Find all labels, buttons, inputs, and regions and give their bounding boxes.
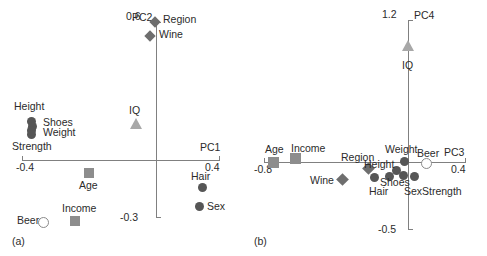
point-label-wine-b: Wine — [310, 175, 334, 186]
point-label-beer-a: Beer — [17, 215, 39, 226]
point-label-strength-a: Strength — [12, 141, 52, 152]
point-marker-strength-a — [27, 130, 36, 139]
point-marker-income-b — [290, 153, 301, 164]
point-label-age-b: Age — [265, 144, 284, 155]
point-label-hair-b: Hair — [369, 186, 388, 197]
point-label-wine-a: Wine — [159, 29, 183, 40]
point-label-height-a: Height — [14, 101, 44, 112]
point-label-region-a: Region — [163, 14, 196, 25]
point-label-sex-a: Sex — [207, 201, 225, 212]
point-label-sex-b: Sex — [404, 186, 422, 197]
point-marker-beer-a — [38, 217, 49, 228]
y-axis-line-b — [408, 20, 409, 230]
x-tick-min-a — [22, 156, 23, 160]
y-tick-min-a — [157, 217, 161, 218]
point-marker-beer-b — [421, 158, 432, 169]
y-tick-label-min-b: -0.5 — [378, 224, 396, 235]
y-tick-max-b — [409, 20, 413, 21]
x-tick-max-b — [465, 158, 466, 162]
point-marker-sex-a — [195, 202, 204, 211]
point-marker-strength-b — [410, 172, 419, 181]
point-marker-hair-a — [198, 183, 207, 192]
point-marker-wine-a — [144, 30, 155, 41]
point-marker-iq-a — [130, 118, 142, 129]
point-label-weight-a: Weight — [43, 127, 76, 138]
panel-label-b: (b) — [254, 236, 267, 247]
point-label-income-b: Income — [291, 143, 325, 154]
point-marker-wine-b — [336, 173, 349, 186]
point-marker-income-a — [70, 216, 80, 226]
panel-label-a: (a) — [12, 236, 25, 247]
x-tick-max-a — [219, 156, 220, 160]
point-label-iq-b: IQ — [402, 60, 413, 71]
point-label-beer-b: Beer — [417, 148, 439, 159]
point-marker-age-b — [268, 157, 279, 168]
point-label-income-a: Income — [62, 203, 96, 214]
point-marker-hair-b — [370, 173, 379, 182]
point-label-iq-a: IQ — [129, 105, 140, 116]
y-axis-name-b: PC4 — [414, 10, 434, 21]
x-axis-name-b: PC3 — [444, 147, 464, 158]
point-label-age-a: Age — [79, 180, 98, 191]
x-axis-name-a: PC1 — [200, 142, 220, 153]
y-tick-label-min-a: -0.3 — [120, 212, 138, 223]
point-label-weight-b: Weight — [385, 144, 418, 155]
scatter-panel-b: -0.8 0.4 1.2 -0.5 PC3 PC4 IQ Age Income … — [244, 0, 487, 256]
point-marker-iq-b — [402, 40, 414, 51]
y-axis-line-a — [156, 22, 157, 218]
point-label-height-b: Height — [364, 159, 394, 170]
scatter-panel-a: -0.4 0.4 0.6 -0.3 PC1 PC2 Region Wine IQ… — [0, 0, 244, 256]
point-marker-age-a — [84, 168, 94, 178]
y-tick-min-b — [409, 229, 413, 230]
x-tick-min-b — [264, 158, 265, 162]
point-marker-weight-b — [400, 157, 409, 166]
x-tick-label-min-a: -0.4 — [16, 162, 34, 173]
x-axis-line-a — [22, 160, 220, 161]
point-label-strength-b: Strength — [422, 186, 462, 197]
y-tick-label-max-b: 1.2 — [382, 9, 397, 20]
point-label-hair-a: Hair — [191, 171, 210, 182]
x-tick-label-max-b: 0.4 — [451, 164, 466, 175]
pca-loadings-figure: -0.4 0.4 0.6 -0.3 PC1 PC2 Region Wine IQ… — [0, 0, 487, 256]
